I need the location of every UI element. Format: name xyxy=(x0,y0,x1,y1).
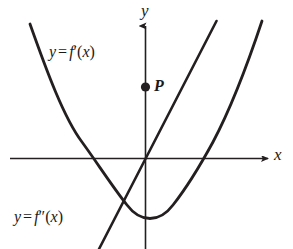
y-axis-label: y xyxy=(141,2,149,19)
curve-label-f-prime: y=f′(x) xyxy=(49,44,95,60)
fprime-arg: (x) xyxy=(77,43,95,60)
fprime-equals: = xyxy=(56,43,69,60)
point-p-dot xyxy=(141,82,150,91)
curve-f-double-prime xyxy=(99,21,217,249)
fdoubleprime-equals: = xyxy=(21,208,34,225)
x-axis-label: x xyxy=(274,146,282,163)
curve-label-f-double-prime: y=f″(x) xyxy=(14,209,63,225)
fdoubleprime-arg: (x) xyxy=(45,208,63,225)
math-figure: y x P y=f′(x) y=f″(x) xyxy=(0,0,293,249)
point-p-label: P xyxy=(154,78,164,94)
